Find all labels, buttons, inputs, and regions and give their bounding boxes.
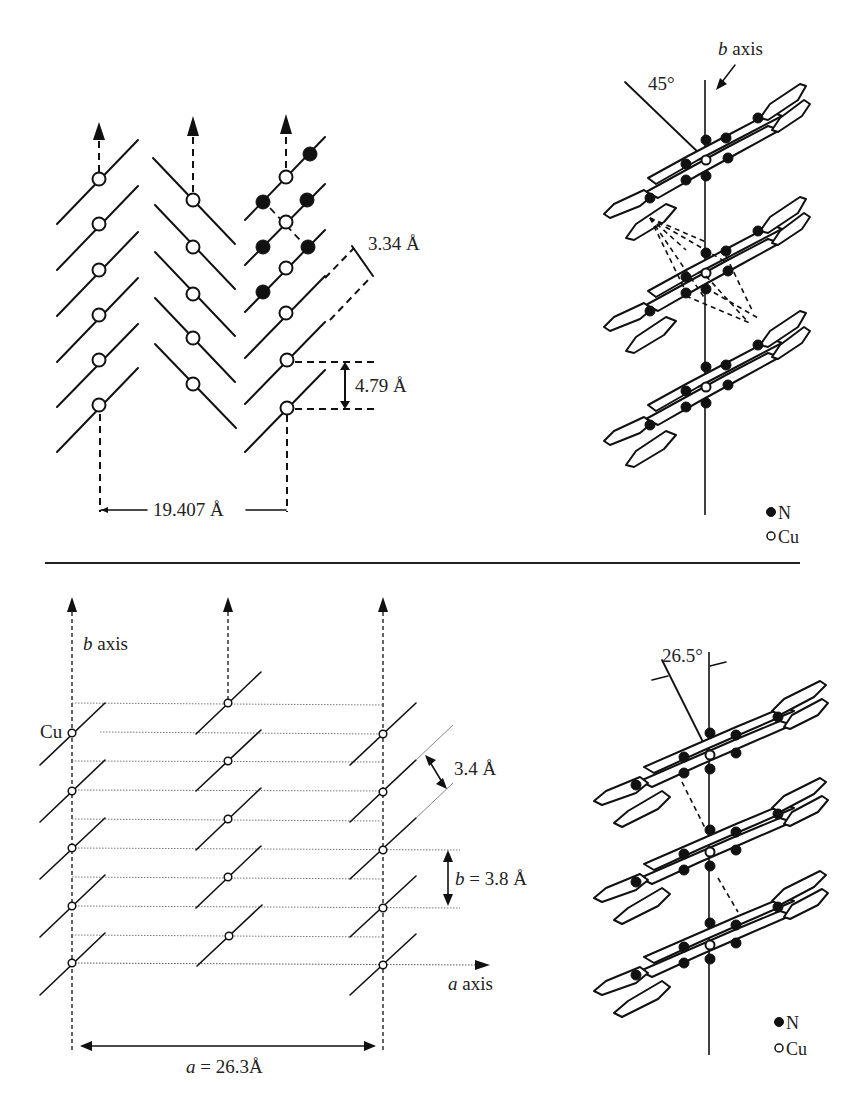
figure-canvas: 3.34 Å 4.79 Å 19.407 Å 45° b axis bbox=[0, 0, 846, 1107]
stack-column-1 bbox=[57, 122, 138, 452]
tilt-angle-45-label: 45° bbox=[648, 73, 675, 94]
legend-n-label: N bbox=[778, 503, 791, 523]
a-parameter-dimension: a = 26.3Å bbox=[80, 1041, 376, 1077]
lattice-lines bbox=[72, 703, 460, 937]
column-separation-dimension: 19.407 Å bbox=[100, 414, 287, 520]
ab-plane-diagram: b axis Cu a axis bbox=[40, 597, 527, 1077]
stack-spacing-dimension: 3.34 Å bbox=[325, 233, 420, 320]
molecule-3 bbox=[604, 311, 810, 467]
cu-distance-label: 4.79 Å bbox=[355, 375, 407, 396]
legend-top: N Cu bbox=[767, 503, 800, 547]
legend-cu-label-bottom: Cu bbox=[786, 1039, 807, 1059]
legend-n-label-bottom: N bbox=[786, 1013, 799, 1033]
b-parameter-label: b = 3.8 Å bbox=[455, 868, 527, 889]
cu-distance-dimension: 4.79 Å bbox=[295, 362, 407, 409]
stack-spacing-label: 3.34 Å bbox=[368, 233, 420, 254]
stack-column-3 bbox=[245, 114, 325, 452]
tilted-stack-26-5-diagram: 26.5° N Cu bbox=[594, 645, 828, 1059]
column-separation-label: 19.407 Å bbox=[153, 499, 224, 520]
stack-column-middle bbox=[196, 672, 262, 966]
stack-spacing-label-bottom: 3.4 Å bbox=[454, 758, 497, 779]
stack-spacing-dimension-bottom: 3.4 Å bbox=[425, 755, 497, 789]
tilt-angle-26-5-label: 26.5° bbox=[662, 645, 703, 666]
b-axis-label: b axis bbox=[83, 633, 128, 654]
a-parameter-label: a = 26.3Å bbox=[186, 1056, 263, 1077]
a-axis-label: a axis bbox=[448, 973, 493, 994]
stack-column-2 bbox=[153, 116, 236, 428]
cu-label: Cu bbox=[40, 721, 63, 742]
herringbone-diagram: 3.34 Å 4.79 Å 19.407 Å bbox=[57, 114, 420, 520]
legend-cu-label: Cu bbox=[778, 527, 799, 547]
b-parameter-dimension: b = 3.8 Å bbox=[443, 850, 527, 906]
legend-bottom: N Cu bbox=[775, 1013, 808, 1059]
tilted-stack-45-diagram: 45° b axis N Cu bbox=[604, 38, 810, 547]
b-axis-label-top: b axis bbox=[718, 38, 763, 59]
